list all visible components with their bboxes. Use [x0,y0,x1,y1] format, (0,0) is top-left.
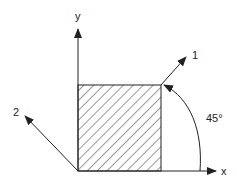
hatched-square [78,85,161,171]
direction-2-arrow [25,116,78,171]
y-axis-label: y [75,11,81,22]
x-axis-label: x [221,166,227,177]
angle-label: 45° [206,113,223,124]
stress-element-diagram [0,0,237,186]
direction-2-label: 2 [13,107,19,118]
direction-1-label: 1 [192,50,198,61]
angle-arc [164,85,200,171]
direction-1-arrow [161,57,186,85]
